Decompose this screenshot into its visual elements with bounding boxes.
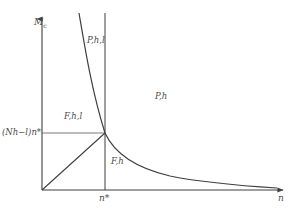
region-label-lower-right: F,h (111, 157, 124, 166)
region-label-lower-left: F,h,l (64, 112, 82, 121)
y-tick-label: (Nh−l)n* (2, 128, 41, 137)
figure-container: Mc n n* (Nh−l)n* P,h,l P,h F,h,l F,h (0, 0, 298, 213)
y-axis-label-text: M (34, 17, 43, 27)
y-axis-label: Mc (34, 18, 47, 29)
y-axis-label-subscript: c (43, 22, 47, 29)
region-label-upper-left: P,h,l (87, 36, 105, 45)
x-tick-label-n-star: n* (99, 194, 109, 203)
figure-canvas (0, 0, 298, 213)
x-axis-label: n (278, 194, 284, 203)
region-label-upper-right: P,h (155, 92, 167, 101)
ray-from-origin (42, 133, 105, 190)
hyperbola-curve (79, 13, 277, 188)
